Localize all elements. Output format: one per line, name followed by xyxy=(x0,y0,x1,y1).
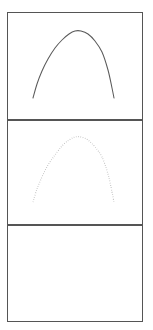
figure-container xyxy=(0,0,153,330)
chart-canvas xyxy=(0,0,153,330)
panel-frame-middle xyxy=(8,121,143,225)
panel-frame-top xyxy=(8,13,143,120)
panel-frame-bottom xyxy=(8,226,143,322)
